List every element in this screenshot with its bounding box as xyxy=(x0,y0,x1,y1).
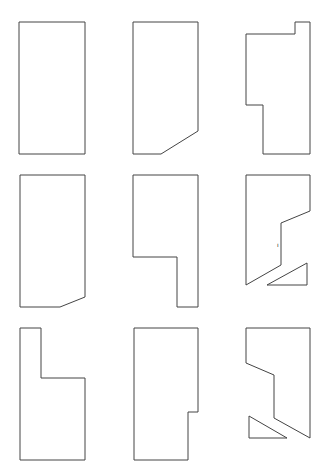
shape-r3c3-cut xyxy=(246,328,310,438)
shape-r3c2-notched xyxy=(134,328,198,460)
shape-r1c2-beveled-corner xyxy=(133,22,198,154)
shape-r2c3-cut xyxy=(246,175,310,285)
shape-r1c3-notched xyxy=(246,22,310,154)
shape-r2c3-triangle xyxy=(267,263,307,285)
shape-r3c1-stepped xyxy=(20,328,85,460)
stray-mark: ı xyxy=(277,241,279,248)
shapes-diagram: ı xyxy=(0,0,330,474)
shape-r2c2-stepped xyxy=(133,175,198,307)
shape-r3c3-triangle xyxy=(249,416,287,438)
shape-r1c1-rectangle xyxy=(19,22,85,154)
shape-r2c1-beveled-corner xyxy=(20,175,85,307)
